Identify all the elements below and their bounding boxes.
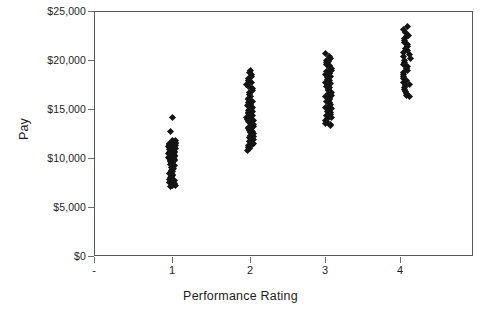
x-tick-label: 4	[380, 264, 420, 276]
y-tick-label: $15,000	[47, 103, 86, 115]
x-tick-label: 2	[230, 264, 270, 276]
y-tick-label: $25,000	[47, 5, 86, 17]
plot-area	[94, 11, 473, 256]
x-tick-label: 3	[305, 264, 345, 276]
x-tick-label: -	[74, 264, 114, 276]
y-tick-label: $10,000	[47, 152, 86, 164]
y-axis-title: Pay	[17, 99, 31, 159]
scatter-chart: $25,000 $20,000 $15,000 $10,000 $5,000 $…	[0, 0, 481, 321]
x-tick-label: 1	[152, 264, 192, 276]
y-tick-label: $5,000	[53, 201, 86, 213]
y-tick-label: $0	[74, 250, 86, 262]
x-axis-title: Performance Rating	[0, 289, 481, 303]
y-tick-label: $20,000	[47, 54, 86, 66]
